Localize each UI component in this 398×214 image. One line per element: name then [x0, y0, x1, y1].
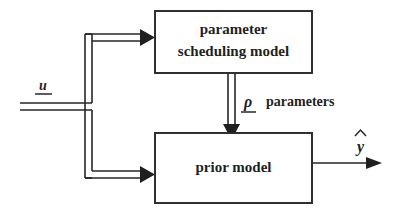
- block-label-scheduling-line1: parameter: [200, 21, 268, 37]
- block-label-prior-model: prior model: [196, 159, 272, 175]
- rho-parameters-text: parameters: [266, 94, 335, 109]
- output-label-yhat: y: [355, 130, 366, 156]
- input-bus-u: [20, 103, 92, 110]
- diagram-canvas: u parameter scheduling model ρ parameter…: [0, 0, 398, 214]
- rho-symbol: ρ: [243, 93, 252, 111]
- output-arrow-yhat: [312, 157, 382, 169]
- input-label-u-text: u: [39, 78, 47, 93]
- block-label-scheduling-line2: scheduling model: [178, 43, 289, 59]
- yhat-accent-icon: [355, 130, 366, 136]
- arrowhead-output: [366, 157, 382, 169]
- arrowhead-to-scheduling-model: [140, 29, 155, 46]
- block-parameter-scheduling-model[interactable]: [155, 11, 312, 73]
- rho-bus: [228, 73, 235, 126]
- arrowhead-to-prior-model: [140, 166, 155, 183]
- block-diagram: u parameter scheduling model ρ parameter…: [0, 0, 398, 214]
- output-label-yhat-text: y: [355, 138, 365, 156]
- input-label-u: u: [35, 78, 52, 94]
- input-split-bus: [85, 34, 143, 178]
- rho-parameter-label: ρ parameters: [241, 93, 335, 112]
